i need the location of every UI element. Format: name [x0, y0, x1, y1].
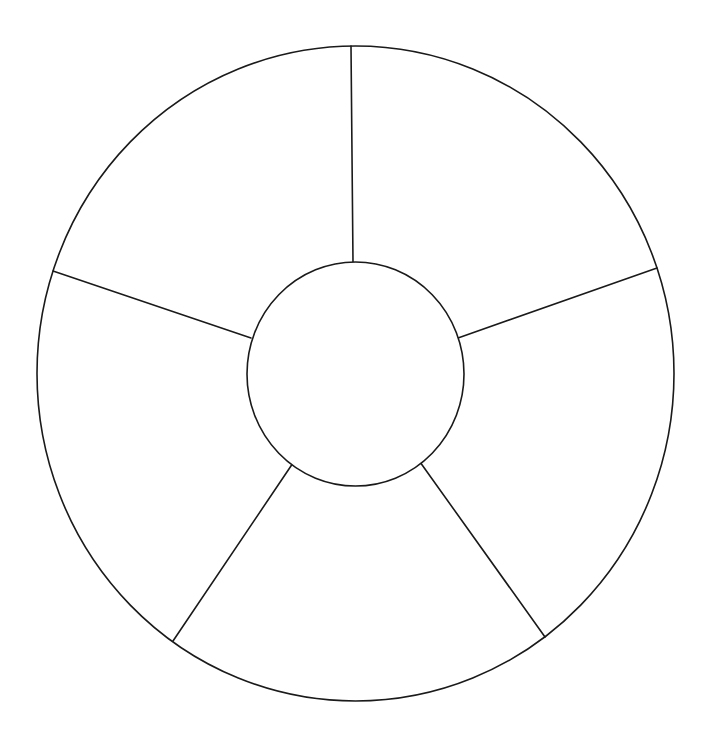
inner-hub	[247, 262, 464, 486]
spoke-lower-right	[420, 462, 545, 637]
spoke-upper-right	[458, 268, 657, 338]
segmented-wheel-diagram	[0, 0, 707, 738]
diagram-canvas	[0, 0, 707, 738]
spoke-upper-left	[53, 271, 251, 338]
spoke-top	[351, 46, 353, 262]
spoke-lower-left	[173, 463, 293, 641]
